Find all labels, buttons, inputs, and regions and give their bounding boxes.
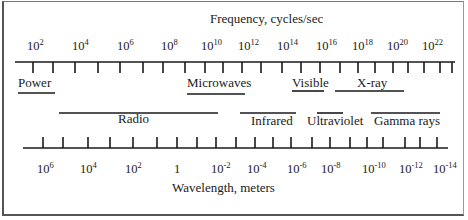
wavelength-tick-label: 10-6 (287, 160, 307, 176)
band-label: Gamma rays (374, 113, 440, 128)
band-ultraviolet: Ultraviolet (307, 113, 364, 128)
frequency-tick-labels: 1021041061081010101210141016101810201022 (27, 37, 443, 53)
em-spectrum-diagram: Frequency, cycles/sec 102104106108101010… (0, 0, 468, 220)
band-radio: Radio (59, 111, 218, 126)
wavelength-axis-title: Wavelength, meters (172, 180, 275, 195)
wavelength-tick-label: 10-8 (321, 160, 341, 176)
band-microwaves: Microwaves (187, 75, 251, 94)
wavelength-tick-label: 1 (174, 162, 180, 176)
frequency-ticks (33, 62, 452, 73)
frequency-tick-label: 1012 (238, 37, 259, 53)
band-label: X-ray (357, 75, 388, 90)
frequency-tick-label: 1018 (352, 37, 373, 53)
band-x-ray: X-ray (335, 75, 404, 91)
frequency-tick-label: 1010 (201, 37, 222, 53)
bands-bottom: RadioInfraredUltravioletGamma rays (59, 111, 440, 128)
band-label: Radio (118, 111, 149, 126)
wavelength-tick-label: 104 (80, 160, 98, 176)
frequency-axis-title: Frequency, cycles/sec (210, 11, 323, 26)
wavelength-tick-label: 10-12 (399, 160, 423, 176)
frequency-tick-label: 102 (27, 37, 44, 53)
band-gamma-rays: Gamma rays (371, 113, 440, 128)
wavelength-tick-label: 106 (37, 160, 54, 176)
wavelength-tick-label: 102 (125, 160, 142, 176)
wavelength-tick-labels: 106104102110-210-410-610-810-1010-1210-1… (37, 160, 458, 176)
band-label: Power (18, 75, 52, 90)
band-visible: Visible (292, 75, 329, 91)
frequency-tick-label: 1022 (422, 37, 443, 53)
frequency-tick-label: 1014 (277, 37, 299, 53)
band-label: Visible (292, 75, 329, 90)
wavelength-tick-label: 10-10 (362, 160, 386, 176)
frequency-tick-label: 108 (161, 37, 178, 53)
band-label: Infrared (251, 113, 293, 128)
band-power: Power (18, 75, 55, 93)
bands-top: PowerMicrowavesVisibleX-ray (18, 75, 404, 94)
frequency-tick-label: 106 (117, 37, 134, 53)
wavelength-tick-label: 10-4 (247, 160, 267, 176)
band-label: Ultraviolet (307, 113, 364, 128)
band-label: Microwaves (187, 75, 251, 90)
wavelength-ticks (43, 137, 437, 148)
band-infrared: Infrared (240, 113, 296, 128)
frequency-tick-label: 104 (72, 37, 90, 53)
frequency-tick-label: 1020 (387, 37, 408, 53)
frequency-tick-label: 1016 (316, 37, 337, 53)
wavelength-tick-label: 10-2 (211, 160, 231, 176)
wavelength-tick-label: 10-14 (433, 160, 458, 176)
